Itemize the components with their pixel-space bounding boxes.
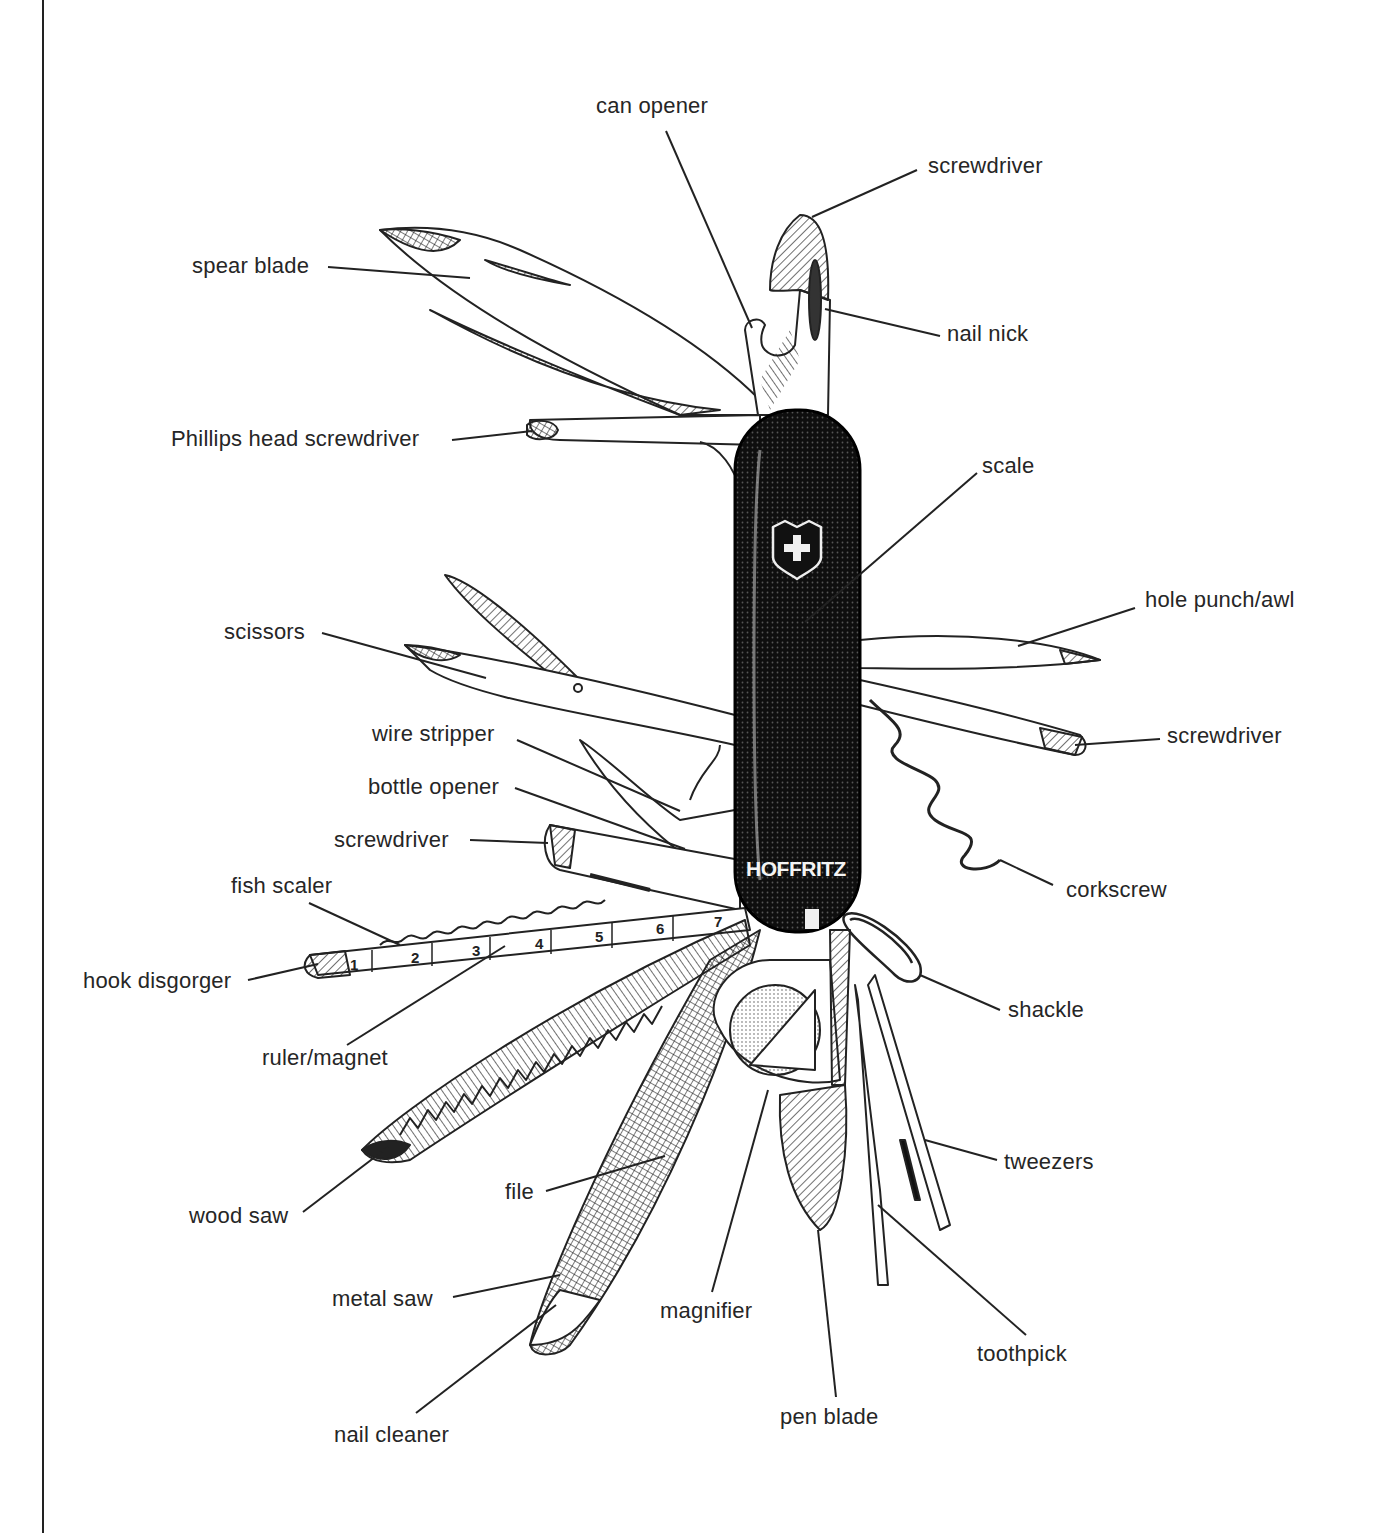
label-shackle: shackle bbox=[1008, 999, 1084, 1021]
screwdriver-right-shape bbox=[860, 680, 1085, 755]
label-screwdriver-top: screwdriver bbox=[928, 155, 1043, 177]
label-bottle-opener: bottle opener bbox=[368, 776, 499, 798]
ruler-number-5: 5 bbox=[595, 928, 603, 945]
ruler-number-2: 2 bbox=[411, 949, 419, 966]
brand-logo-text: HOFFRITZ bbox=[744, 857, 848, 881]
label-toothpick: toothpick bbox=[977, 1343, 1067, 1365]
label-can-opener: can opener bbox=[596, 95, 708, 117]
label-magnifier: magnifier bbox=[660, 1300, 752, 1322]
label-file: file bbox=[505, 1181, 534, 1203]
ruler-number-7: 7 bbox=[714, 913, 722, 930]
label-metal-saw: metal saw bbox=[332, 1288, 433, 1310]
label-tweezers: tweezers bbox=[1004, 1151, 1094, 1173]
label-scissors: scissors bbox=[224, 621, 305, 643]
label-wood-saw: wood saw bbox=[189, 1205, 288, 1227]
ruler-number-4: 4 bbox=[535, 935, 543, 952]
label-ruler-magnet: ruler/magnet bbox=[262, 1047, 388, 1069]
ruler-number-1: 1 bbox=[350, 956, 358, 973]
knife-handle bbox=[735, 410, 860, 932]
spear-blade-shape bbox=[380, 228, 760, 415]
label-hole-punch-awl: hole punch/awl bbox=[1145, 589, 1295, 611]
label-hook-disgorger: hook disgorger bbox=[83, 970, 231, 992]
tweezers-shape bbox=[855, 975, 950, 1285]
label-phillips-head-screwdriver: Phillips head screwdriver bbox=[171, 428, 419, 450]
label-nail-cleaner: nail cleaner bbox=[334, 1424, 449, 1446]
scissors-shape bbox=[405, 575, 735, 745]
label-wire-stripper: wire stripper bbox=[372, 723, 494, 745]
ruler-number-6: 6 bbox=[656, 920, 664, 937]
hole-punch-shape bbox=[860, 636, 1100, 669]
label-screwdriver-left: screwdriver bbox=[334, 829, 449, 851]
label-pen-blade: pen blade bbox=[780, 1406, 878, 1428]
ruler-number-3: 3 bbox=[472, 942, 480, 959]
label-corkscrew: corkscrew bbox=[1066, 879, 1167, 901]
shackle-shape bbox=[843, 913, 920, 981]
label-scale: scale bbox=[982, 455, 1034, 477]
label-spear-blade: spear blade bbox=[192, 255, 309, 277]
label-fish-scaler: fish scaler bbox=[231, 875, 332, 897]
phillips-screwdriver-shape bbox=[527, 415, 760, 490]
magnifier-shape bbox=[714, 960, 840, 1083]
label-nail-nick: nail nick bbox=[947, 323, 1028, 345]
label-screwdriver-right: screwdriver bbox=[1167, 725, 1282, 747]
